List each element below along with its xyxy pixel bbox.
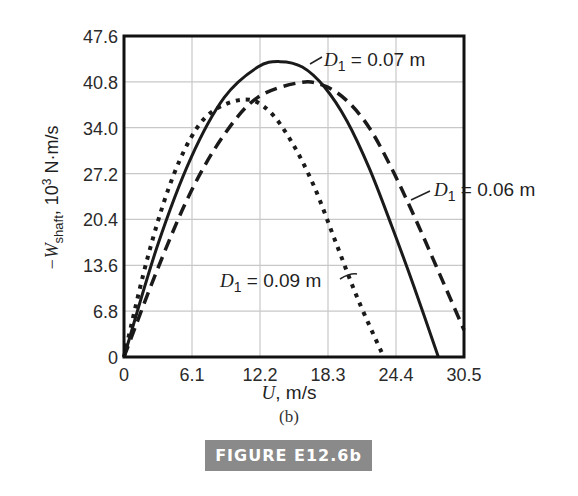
data-curves: [124, 62, 464, 357]
annotation-d1-0.07: D1 = 0.07 m: [310, 49, 425, 74]
y-tick-labels: 06.813.620.427.234.040.847.6: [83, 27, 118, 368]
subfigure-label: (b): [0, 407, 578, 427]
y-tick-label: 0: [108, 348, 118, 368]
svg-text:D1 = 0.07 m: D1 = 0.07 m: [323, 49, 425, 74]
figure-caption-badge: FIGURE E12.6b: [205, 440, 372, 471]
svg-text:D1 = 0.09 m: D1 = 0.09 m: [219, 270, 321, 295]
y-tick-label: 34.0: [83, 119, 118, 139]
annotation-d1-0.06: D1 = 0.06 m: [411, 179, 535, 204]
y-tick-label: 20.4: [83, 210, 118, 230]
y-tick-label: 47.6: [83, 27, 118, 47]
y-tick-label: 6.8: [93, 302, 118, 322]
x-axis-label: U, m/s: [0, 382, 578, 404]
y-tick-label: 13.6: [83, 256, 118, 276]
y-axis-label: −Wshaft, 103 N·m/s: [40, 125, 66, 270]
curve-solid: [124, 62, 438, 357]
y-tick-label: 27.2: [83, 165, 118, 185]
annotation-d1-0.09: D1 = 0.09 m: [219, 270, 357, 295]
svg-text:D1 = 0.06 m: D1 = 0.06 m: [433, 179, 535, 204]
y-tick-label: 40.8: [83, 73, 118, 93]
